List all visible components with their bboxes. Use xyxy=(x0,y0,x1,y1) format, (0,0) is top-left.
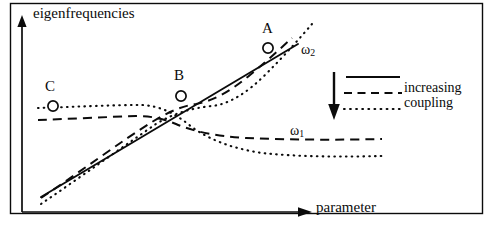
x-axis-arrowhead-icon xyxy=(298,207,312,217)
figure-root: eigenfrequencies parameter A B C ω2 ω1 i… xyxy=(0,0,494,237)
data-point-label-c: C xyxy=(45,79,55,94)
branch-label-omega-2: ω2 xyxy=(301,43,315,58)
eigenfrequency-plot xyxy=(0,0,494,237)
omega-symbol-upper: ω xyxy=(301,42,310,57)
omega-subscript-upper: 2 xyxy=(310,47,315,58)
y-axis-arrowhead-icon xyxy=(17,15,26,27)
legend-caption-line-1: increasing xyxy=(404,80,462,95)
data-point-label-b: B xyxy=(174,68,184,83)
omega-symbol-lower: ω xyxy=(290,123,299,138)
omega-subscript-lower: 1 xyxy=(299,128,304,139)
branch-label-omega-1: ω1 xyxy=(290,124,304,139)
legend-down-arrow-icon xyxy=(328,104,340,120)
data-point-marker-b[interactable] xyxy=(176,91,186,101)
data-point-marker-a[interactable] xyxy=(263,43,273,53)
legend-caption-line-2: coupling xyxy=(404,95,462,110)
legend-caption: increasing coupling xyxy=(404,80,462,110)
x-axis-label: parameter xyxy=(316,200,376,215)
series-dotted-lower xyxy=(38,105,382,157)
series-dashed-lower xyxy=(38,116,382,140)
data-point-label-a: A xyxy=(262,21,273,36)
data-point-marker-c[interactable] xyxy=(48,101,58,111)
y-axis-label: eigenfrequencies xyxy=(33,6,135,21)
